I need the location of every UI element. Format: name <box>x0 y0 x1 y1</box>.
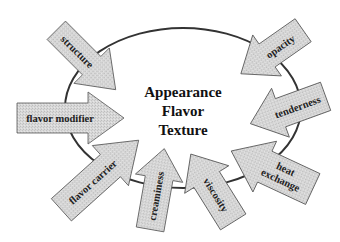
arrow-label-flavor-modifier: flavor modifier <box>26 113 94 124</box>
center-line-flavor: Flavor <box>162 103 205 119</box>
diagram: Appearance Flavor Texture structure flav… <box>0 0 340 242</box>
diagram-canvas: Appearance Flavor Texture structure flav… <box>0 0 340 242</box>
center-line-texture: Texture <box>158 122 208 138</box>
center-line-appearance: Appearance <box>144 84 222 100</box>
